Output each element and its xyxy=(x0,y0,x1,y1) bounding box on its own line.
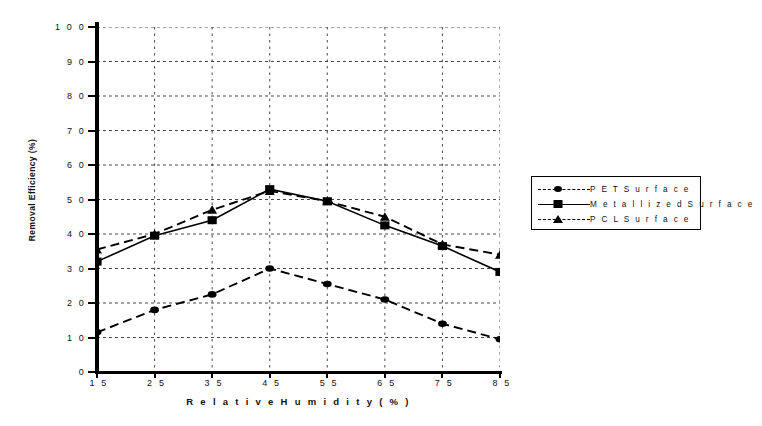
legend-line-dashed xyxy=(538,189,590,190)
series-markers-pcl-surface xyxy=(97,186,500,258)
x-tick-label: 5 5 xyxy=(320,378,339,388)
legend-label-metallized: M e t a l l i z e d S u r f a c e xyxy=(590,200,754,209)
circle-marker-icon xyxy=(265,265,274,272)
triangle-marker-icon xyxy=(207,205,217,214)
y-tick-label: 0 xyxy=(0,367,86,377)
y-tick-mark xyxy=(88,26,97,28)
series-markers-metallized-surface xyxy=(97,185,500,276)
y-tick-mark xyxy=(88,164,97,166)
x-tick-label: 4 5 xyxy=(262,378,281,388)
y-axis-title: Removal Efficiency (%) xyxy=(27,110,37,270)
legend-label-pet: P E T S u r f a c e xyxy=(590,185,690,194)
circle-marker-icon xyxy=(150,307,159,314)
x-tick-label: 7 5 xyxy=(435,378,454,388)
x-tick-label: 3 5 xyxy=(205,378,224,388)
legend-item-metallized[interactable]: M e t a l l i z e d S u r f a c e xyxy=(532,197,700,212)
circle-marker-icon xyxy=(554,186,562,192)
x-axis-title: R e l a t i v e H u m i d i t y ( % ) xyxy=(97,396,500,407)
circle-marker-icon xyxy=(380,296,389,303)
chart-legend: P E T S u r f a c e M e t a l l i z e d … xyxy=(531,176,701,230)
y-tick-label: 2 0 xyxy=(0,298,86,308)
y-tick-mark xyxy=(88,337,97,339)
triangle-marker-icon xyxy=(553,215,563,223)
y-tick-mark xyxy=(88,268,97,270)
y-tick-mark xyxy=(88,95,97,97)
x-tick-label: 2 5 xyxy=(147,378,166,388)
y-tick-mark xyxy=(88,199,97,201)
y-tick-label: 1 0 xyxy=(0,333,86,343)
square-marker-icon xyxy=(380,221,389,229)
plot-area xyxy=(97,27,500,372)
gridlines xyxy=(97,27,500,372)
triangle-marker-icon xyxy=(495,250,500,259)
x-tick-label: 6 5 xyxy=(377,378,396,388)
square-marker-icon xyxy=(495,268,500,276)
y-tick-label: 5 0 xyxy=(0,195,86,205)
y-tick-mark xyxy=(88,233,97,235)
y-tick-label: 8 0 xyxy=(0,91,86,101)
series-line-pet-surface xyxy=(97,269,500,340)
circle-marker-icon xyxy=(323,281,332,288)
y-tick-label: 9 0 xyxy=(0,57,86,67)
legend-line-solid xyxy=(538,204,590,205)
legend-label-pcl: P C L S u r f a c e xyxy=(590,215,690,224)
y-tick-mark xyxy=(88,302,97,304)
x-tick-label: 1 5 xyxy=(89,378,108,388)
x-tick-label: 8 5 xyxy=(492,378,511,388)
legend-key-pcl xyxy=(538,213,590,227)
y-tick-label: 1 0 0 xyxy=(0,22,86,32)
y-tick-label: 3 0 xyxy=(0,264,86,274)
y-tick-mark xyxy=(88,61,97,63)
y-tick-label: 7 0 xyxy=(0,126,86,136)
plot-canvas xyxy=(97,27,500,372)
legend-key-metallized xyxy=(538,198,590,212)
y-tick-mark xyxy=(88,130,97,132)
square-marker-icon xyxy=(208,216,217,224)
legend-item-pcl[interactable]: P C L S u r f a c e xyxy=(532,212,700,227)
chart-figure: 01 02 03 04 05 06 07 08 09 01 0 0 1 52 5… xyxy=(0,0,762,426)
legend-key-pet xyxy=(538,183,590,197)
square-marker-icon xyxy=(554,200,563,208)
circle-marker-icon xyxy=(438,320,447,327)
series-line-metallized-surface xyxy=(97,189,500,272)
y-tick-label: 4 0 xyxy=(0,229,86,239)
legend-line-dashed-short xyxy=(538,219,590,220)
circle-marker-icon xyxy=(208,291,217,298)
circle-marker-icon xyxy=(496,336,500,343)
y-tick-label: 6 0 xyxy=(0,160,86,170)
legend-item-pet[interactable]: P E T S u r f a c e xyxy=(532,182,700,197)
